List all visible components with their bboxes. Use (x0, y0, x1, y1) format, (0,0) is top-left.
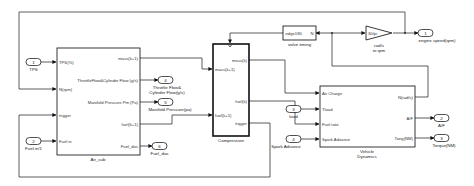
svg-text:ThrottleFlow&Cylinder Flow (g: ThrottleFlow&Cylinder Flow (g/s) (77, 78, 138, 83)
simulink-diagram: 1 TPS 2 Fuel in/1 3 load 4 Spark Advance… (0, 0, 474, 186)
outport-fuel-das[interactable]: 6 Fuel_das (150, 143, 169, 157)
svg-text:Torque(NM): Torque(NM) (432, 143, 456, 148)
svg-text:N: N (310, 31, 313, 36)
vehicle-dynamics-block[interactable]: Air Charge Tload Fuel rate Spark Advance… (320, 86, 415, 159)
gain-block[interactable]: 30/pi rad/s to rpm (366, 26, 392, 53)
svg-text:N(rpm): N(rpm) (59, 87, 73, 92)
svg-text:Manifold Pressure(pa): Manifold Pressure(pa) (148, 107, 192, 112)
svg-text:Spark Advance: Spark Advance (322, 137, 351, 142)
air-sub-block[interactable]: TPS(%) N(rpm) trigger Fuel in mass(k+1) … (57, 48, 140, 162)
air-charge-line (249, 60, 319, 93)
svg-text:Cylinder Flow(g/s): Cylinder Flow(g/s) (149, 90, 185, 95)
svg-text:A/F: A/F (438, 123, 445, 128)
fuel-rate-line (249, 101, 319, 124)
svg-text:Manifold Pressure Pm (Pa): Manifold Pressure Pm (Pa) (88, 100, 139, 105)
svg-text:fuel(k+1): fuel(k+1) (122, 122, 139, 127)
compression-block[interactable]: mass(k+1) fuel(k+1) mass(k) fuel(k) trig… (213, 43, 249, 143)
svg-text:Air_sub: Air_sub (91, 157, 106, 162)
svg-text:load: load (289, 114, 298, 119)
outport-engine-speed[interactable]: 1 engine speed(rpm) (418, 30, 456, 44)
svg-text:Tang(NM): Tang(NM) (395, 136, 414, 141)
svg-text:mass(k+1): mass(k+1) (118, 56, 138, 61)
fuel-line (140, 115, 212, 124)
inport-load[interactable]: 3 load (286, 106, 301, 120)
outport-torque[interactable]: 3 Torque(NM) (432, 135, 456, 149)
svg-text:Spark Advance: Spark Advance (271, 144, 301, 149)
outport-af[interactable]: 2 A/F (434, 115, 449, 129)
svg-text:Compression: Compression (218, 138, 244, 143)
svg-text:Fuel in/1: Fuel in/1 (25, 146, 42, 151)
svg-text:TPS: TPS (29, 67, 38, 72)
svg-text:fuel(k): fuel(k) (235, 99, 247, 104)
outport-manifold-pressure[interactable]: 5 Manifold Pressure(pa) (148, 99, 192, 113)
mass-line (140, 58, 212, 69)
svg-text:trigger: trigger (59, 113, 71, 118)
svg-text:engine speed(rpm): engine speed(rpm) (419, 38, 456, 43)
svg-text:A/F: A/F (406, 116, 413, 121)
outport-throttle-flow[interactable]: 4 Throttle Flow& Cylinder Flow(g/s) (149, 77, 185, 96)
svg-text:fuel(k+1): fuel(k+1) (215, 113, 232, 118)
inport-fuel-in[interactable]: 2 Fuel in/1 (25, 138, 42, 152)
svg-text:Dynamics: Dynamics (357, 154, 377, 159)
svg-text:Fuel_das: Fuel_das (150, 151, 169, 156)
valve-timing-out-line (230, 33, 283, 43)
svg-text:mass(k): mass(k) (232, 58, 247, 63)
svg-text:30/pi: 30/pi (368, 31, 377, 36)
svg-text:Fuel in: Fuel in (59, 139, 72, 144)
svg-text:valve timing: valve timing (288, 42, 312, 47)
svg-text:trigger: trigger (235, 121, 247, 126)
inport-tps[interactable]: 1 TPS (26, 59, 41, 73)
valve-timing-block[interactable]: edge180 N valve timing (283, 26, 316, 47)
svg-text:TPS(%): TPS(%) (59, 60, 74, 65)
svg-text:Fuel_das: Fuel_das (121, 144, 138, 149)
svg-text:Fuel rate: Fuel rate (322, 122, 339, 127)
svg-text:Tload: Tload (322, 107, 333, 112)
svg-text:mass(k+1): mass(k+1) (215, 67, 235, 72)
svg-text:Air Charge: Air Charge (322, 91, 343, 96)
inport-spark-advance[interactable]: 4 Spark Advance (271, 136, 301, 150)
svg-text:N(rad/s): N(rad/s) (398, 95, 414, 100)
svg-text:to rpm: to rpm (373, 48, 386, 53)
svg-text:edge180: edge180 (286, 31, 303, 36)
